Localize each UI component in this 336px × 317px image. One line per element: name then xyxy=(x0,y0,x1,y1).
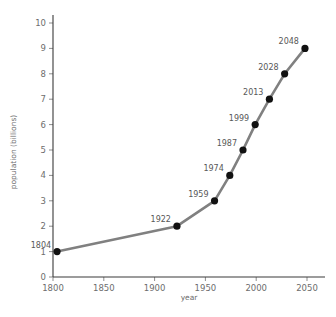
y-tick-label: 4 xyxy=(41,170,46,180)
y-tick-label: 0 xyxy=(41,272,46,282)
data-point-label: 2028 xyxy=(258,63,278,72)
data-point-marker xyxy=(211,197,218,204)
data-point-label: 1974 xyxy=(203,164,223,173)
data-point-marker xyxy=(53,248,60,255)
y-tick-label: 9 xyxy=(41,43,46,53)
y-tick-label: 10 xyxy=(35,18,46,28)
y-tick-label: 6 xyxy=(41,120,46,130)
y-tick-label: 3 xyxy=(41,196,46,206)
y-tick-label: 8 xyxy=(41,69,46,79)
data-point-marker xyxy=(266,96,273,103)
x-tick-label: 1850 xyxy=(93,283,115,293)
data-point-marker xyxy=(281,70,288,77)
data-point-labels: 180419221959197419871999201320282048 xyxy=(31,37,299,249)
data-point-marker xyxy=(301,45,308,52)
x-axis-title: year xyxy=(181,293,199,302)
x-tick-label: 1950 xyxy=(195,283,217,293)
data-point-marker xyxy=(252,121,259,128)
x-tick-label: 2000 xyxy=(245,283,267,293)
x-axis-ticks: 180018501900195020002050 xyxy=(42,277,318,293)
data-point-marker xyxy=(239,146,246,153)
x-tick-label: 1900 xyxy=(144,283,166,293)
y-tick-label: 7 xyxy=(41,94,46,104)
data-point-marker xyxy=(226,172,233,179)
y-tick-label: 5 xyxy=(41,145,46,155)
data-point-marker xyxy=(173,223,180,230)
data-point-label: 1999 xyxy=(229,114,249,123)
population-line xyxy=(57,48,305,251)
data-point-label: 1959 xyxy=(188,190,208,199)
data-point-label: 1987 xyxy=(217,139,237,148)
chart-canvas: 012345678910 180018501900195020002050 18… xyxy=(0,0,336,317)
y-axis-title: population (billions) xyxy=(9,115,18,190)
population-growth-chart: 012345678910 180018501900195020002050 18… xyxy=(0,0,336,317)
data-point-label: 1804 xyxy=(31,241,51,250)
x-tick-label: 1800 xyxy=(42,283,64,293)
data-point-label: 2013 xyxy=(243,88,263,97)
y-tick-label: 2 xyxy=(41,221,46,231)
x-tick-label: 2050 xyxy=(296,283,318,293)
data-point-label: 2048 xyxy=(279,37,299,46)
data-point-label: 1922 xyxy=(151,215,171,224)
